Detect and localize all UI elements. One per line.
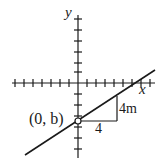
y-intercept-marker: [75, 118, 81, 124]
y-intercept-label: (0, b): [29, 111, 64, 127]
graph-figure: y x (0, b) 4m 4: [0, 0, 161, 164]
x-axis-label: x: [139, 82, 146, 97]
y-axis-label: y: [65, 5, 72, 20]
coordinate-plane-svg: [0, 0, 161, 164]
rise-label: 4m: [119, 102, 137, 116]
run-label: 4: [95, 122, 102, 136]
x-axis-group: [12, 79, 155, 87]
y-axis-group: [74, 15, 82, 158]
